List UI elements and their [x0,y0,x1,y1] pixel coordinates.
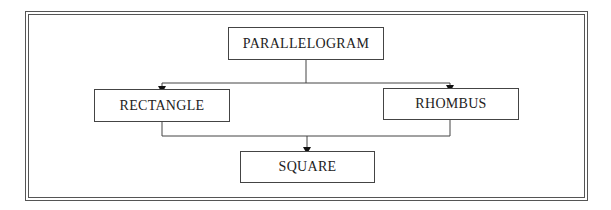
node-label: PARALLELOGRAM [243,36,369,52]
node-rectangle: RECTANGLE [94,89,230,122]
node-square: SQUARE [240,151,375,183]
node-label: RHOMBUS [415,96,486,112]
node-label: SQUARE [279,159,337,175]
node-rhombus: RHOMBUS [383,88,519,120]
node-label: RECTANGLE [120,98,205,114]
node-parallelogram: PARALLELOGRAM [228,27,384,60]
